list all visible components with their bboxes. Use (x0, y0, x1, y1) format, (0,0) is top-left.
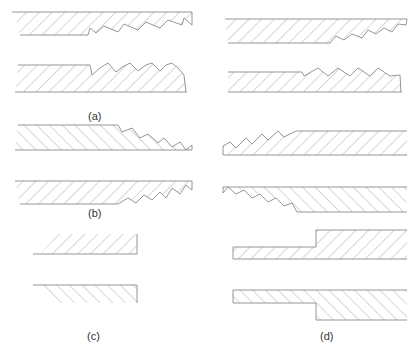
panel-b: (b) (15, 125, 192, 219)
panel-d-part-4 (223, 187, 407, 212)
panel-c: (c) (33, 234, 137, 342)
panel-d-part-1 (225, 19, 407, 43)
panel-c-upper-part (33, 234, 137, 254)
panel-d-part-5-shape (233, 230, 407, 259)
panel-c-lower-part (33, 285, 137, 303)
panel-d-part-6-shape (233, 290, 407, 320)
panel-a-lower-part (15, 63, 187, 92)
panel-a-label: (a) (88, 110, 101, 122)
panel-c-upper-shape (40, 234, 137, 254)
panel-a-upper-part (12, 12, 192, 35)
panel-d: (d) (223, 19, 407, 342)
panel-c-lower-shape (40, 285, 137, 303)
panel-b-lower-part (15, 181, 192, 204)
panel-d-part-2 (228, 68, 402, 92)
panel-b-label: (b) (88, 207, 101, 219)
figure-canvas: (a) (b) (c) (0, 0, 416, 351)
panel-b-upper-shape (15, 125, 192, 150)
panel-d-part-5 (233, 230, 407, 259)
panel-d-part-6 (233, 290, 407, 320)
panel-a: (a) (12, 12, 192, 122)
panel-d-label: (d) (320, 330, 333, 342)
panel-b-upper-part (15, 125, 192, 150)
panel-d-part-4-shape (223, 187, 407, 212)
panel-d-part-3 (223, 131, 407, 155)
panel-b-lower-shape (15, 181, 192, 204)
panel-a-upper-shape (14, 12, 192, 35)
panel-c-label: (c) (87, 330, 100, 342)
